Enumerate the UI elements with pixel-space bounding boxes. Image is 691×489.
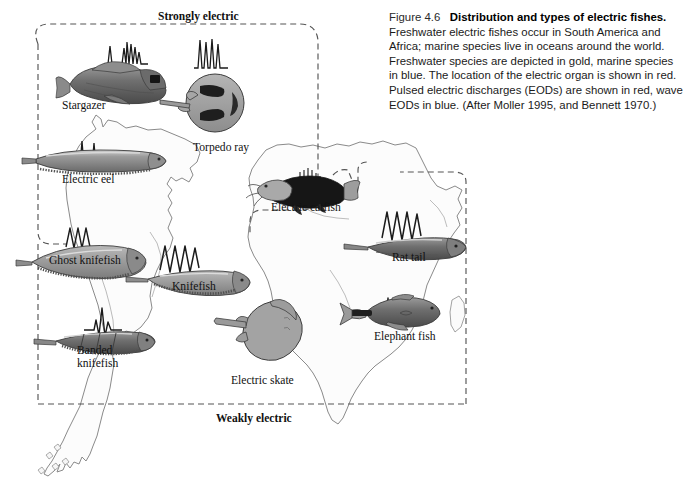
species-label-ghost-knifefish: Ghost knifefish: [49, 255, 121, 268]
species-label-knifefish: Knifefish: [172, 281, 216, 294]
species-label-electric-eel: Electric eel: [62, 174, 114, 187]
species-label-elephant-fish: Elephant fish: [374, 331, 436, 344]
species-label-banded-knifefish: Banded knifefish: [77, 345, 135, 370]
species-label-electric-catfish: Electric catfish: [271, 202, 341, 215]
species-label-stargazer: Stargazer: [62, 100, 106, 113]
figure-number: Figure 4.6: [389, 11, 440, 23]
figure-caption: Figure 4.6 Distribution and types of ele…: [389, 10, 683, 112]
fish-elephant-fish: [340, 294, 440, 330]
species-label-electric-skate: Electric skate: [231, 375, 294, 388]
zone-label-strongly-electric: Strongly electric: [158, 10, 239, 22]
fish-torpedo-ray: [160, 39, 244, 132]
figure-title: Distribution and types of electric fishe…: [450, 11, 666, 23]
species-label-torpedo-ray: Torpedo ray: [193, 142, 249, 155]
fish-stargazer: [56, 42, 166, 104]
species-label-rat-tail: Rat tail: [392, 252, 426, 265]
figure-caption-body: Freshwater electric fishes occur in Sout…: [389, 26, 683, 111]
south-america-map: [38, 115, 200, 476]
fish-electric-skate: [214, 299, 302, 360]
zone-label-weakly-electric: Weakly electric: [216, 412, 292, 424]
fish-electric-eel: [22, 141, 166, 174]
figure-page: Figure 4.6 Distribution and types of ele…: [0, 0, 691, 489]
